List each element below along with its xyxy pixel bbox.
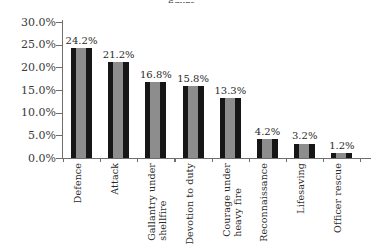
bar-column: 3.2% [294,22,315,158]
bar [71,48,92,158]
bar [220,98,241,158]
bar [257,139,278,158]
y-tick-label: 0.0% [4,153,56,164]
bar-value-label: 1.2% [319,141,365,151]
x-axis-label: Defence [73,163,84,203]
bar-column: 15.8% [183,22,204,158]
bar-chart: figure 30.0%25.0%20.0%15.0%10.0%5.0%0.0%… [0,0,381,248]
x-tick-mark [249,158,250,162]
bar [294,144,315,159]
bar-value-label: 21.2% [96,50,142,60]
bar [108,62,129,158]
y-tick-mark [56,158,62,159]
bar-value-label: 15.8% [170,74,216,84]
x-tick-mark [100,158,101,162]
bar-column: 4.2% [257,22,278,158]
bar [145,82,166,158]
chart-title-cropped: figure [168,0,204,3]
x-tick-mark [63,158,64,162]
y-tick-mark [56,135,62,136]
bar [183,86,204,158]
x-axis-label: Reconnaissance [259,163,270,242]
x-axis-label: Gallantry under shellfire [147,163,168,241]
x-axis-label: Attack [110,163,121,195]
bar-column: 16.8% [145,22,166,158]
y-tick-mark [56,90,62,91]
y-tick-mark [56,113,62,114]
bar-value-label: 13.3% [207,86,253,96]
y-tick-label: 15.0% [4,85,56,96]
x-axis-label: Courage under heavy fire [222,163,243,237]
y-tick-mark [56,22,62,23]
bar-column: 24.2% [71,22,92,158]
x-tick-mark [286,158,287,162]
bar-column: 13.3% [220,22,241,158]
x-axis-label: Officer rescue [333,163,344,233]
bar-value-label: 24.2% [59,36,105,46]
y-tick-label: 25.0% [4,39,56,50]
y-tick-label: 20.0% [4,62,56,73]
x-tick-mark [212,158,213,162]
x-tick-mark [323,158,324,162]
y-tick-label: 30.0% [4,17,56,28]
y-tick-mark [56,67,62,68]
x-tick-mark [360,158,361,162]
x-axis-label: Lifesaving [296,163,307,214]
x-axis-label: Devotion to duty [185,163,196,245]
bar-column: 1.2% [331,22,352,158]
y-tick-label: 5.0% [4,130,56,141]
y-tick-label: 10.0% [4,107,56,118]
bar-column: 21.2% [108,22,129,158]
bar [331,153,352,158]
x-tick-mark [175,158,176,162]
x-tick-mark [137,158,138,162]
